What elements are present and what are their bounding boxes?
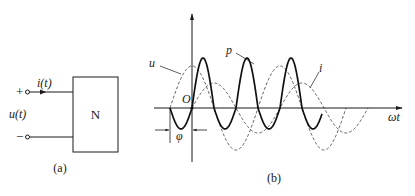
- phase-label: φ: [176, 129, 183, 143]
- voltage-label: u(t): [9, 107, 26, 121]
- x-axis-label: ωt: [388, 110, 400, 124]
- minus-sign: −: [16, 129, 23, 144]
- u-leader-line: [160, 66, 181, 74]
- caption-b: (b): [267, 171, 281, 185]
- i-label: i: [319, 61, 322, 75]
- origin-label: O: [182, 92, 191, 106]
- i-leader-line: [310, 72, 319, 88]
- p-label: p: [225, 43, 232, 57]
- caption-a: (a): [53, 161, 66, 175]
- network-label: N: [91, 107, 101, 122]
- current-label: i(t): [37, 76, 52, 90]
- power-curve-p: [170, 58, 322, 129]
- circuit-diagram: N + i(t) − u(t) (a): [9, 76, 118, 175]
- p-leader-line: [236, 53, 254, 64]
- current-arrow-icon: [40, 90, 46, 95]
- bottom-terminal: [26, 135, 30, 139]
- waveform-plot: ωt O u p i φ (b): [149, 14, 402, 185]
- u-label: u: [149, 56, 155, 70]
- top-terminal: [26, 90, 30, 94]
- figure-canvas: N + i(t) − u(t) (a) ωt O u p i: [0, 0, 415, 196]
- plus-sign: +: [16, 84, 23, 99]
